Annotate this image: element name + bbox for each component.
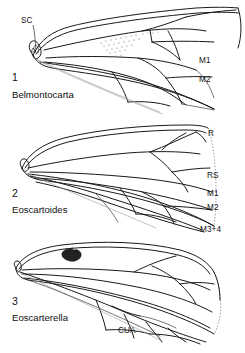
- figure-plate: SC M1 M2 1 Belmontocarta: [0, 0, 245, 353]
- fig2-label-r: R: [208, 130, 214, 138]
- fig3-vein-network: [18, 256, 214, 344]
- fig3-genus-name: Eoscarterella: [12, 313, 68, 323]
- fig1-number: 1: [12, 72, 18, 83]
- fig2-genus-name: Eoscartoides: [12, 205, 67, 215]
- fig2-label-m3plus4: M3+4: [200, 226, 221, 234]
- fig2-label-m1: M1: [207, 190, 219, 198]
- fig1-label-m2: M2: [199, 76, 211, 84]
- fig2-number: 2: [12, 188, 18, 199]
- fig2-label-rs: RS: [207, 172, 219, 180]
- fig1-genus-name: Belmontocarta: [12, 90, 74, 100]
- figure-3-wing-diagram: [0, 236, 245, 353]
- fig3-basal-loop: [14, 261, 21, 271]
- fig2-label-m2: M2: [207, 204, 219, 212]
- fig3-label-cua: CUA: [118, 327, 136, 335]
- fig3-number: 3: [12, 296, 18, 307]
- fig1-label-sc: SC: [21, 17, 33, 25]
- fig1-stippled-patch: [100, 32, 158, 57]
- fig1-label-m1: M1: [199, 57, 211, 65]
